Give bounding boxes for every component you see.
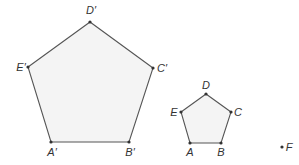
large-vertex-point xyxy=(26,65,29,68)
large-vertex-point xyxy=(151,66,154,69)
large-vertex-point xyxy=(88,20,91,23)
center-point-label: F xyxy=(286,141,294,153)
small-vertex-label: B xyxy=(217,146,224,158)
large-vertex-label: A′ xyxy=(46,146,57,158)
small-vertex-label: E xyxy=(170,106,178,118)
large-vertex-label: D′ xyxy=(86,4,97,16)
large-pentagon xyxy=(28,22,153,142)
small-vertex-label: A xyxy=(185,146,193,158)
large-vertex-label: E′ xyxy=(16,61,26,73)
small-vertex-point xyxy=(229,110,232,113)
center-point xyxy=(280,145,283,148)
large-vertex-point xyxy=(127,140,130,143)
small-vertex-point xyxy=(179,110,182,113)
small-vertex-point xyxy=(219,141,222,144)
small-vertex-label: C xyxy=(234,106,242,118)
dilation-diagram: A′B′C′D′E′ ABCDE F xyxy=(0,0,299,165)
large-vertex-point xyxy=(49,140,52,143)
small-vertex-point xyxy=(204,92,207,95)
small-vertex-label: D xyxy=(202,79,210,91)
large-vertex-label: B′ xyxy=(125,146,135,158)
small-vertex-point xyxy=(188,141,191,144)
large-vertex-label: C′ xyxy=(157,62,168,74)
small-pentagon xyxy=(181,94,231,143)
dilation-center: F xyxy=(280,141,293,153)
